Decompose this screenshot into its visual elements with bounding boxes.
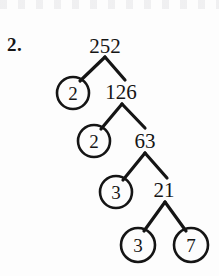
prime-node-7: 7 <box>186 236 196 255</box>
composite-node-21: 21 <box>154 180 175 201</box>
composite-node-63: 63 <box>135 131 156 152</box>
composite-node-252: 252 <box>89 36 121 57</box>
prime-node-2a: 2 <box>68 84 78 103</box>
prime-node-2b: 2 <box>89 132 99 151</box>
prime-node-3b: 3 <box>133 236 143 255</box>
factor-tree-page: 2. 252 126 63 21 2 2 3 3 7 <box>0 0 219 276</box>
branch-252-126 <box>105 57 125 80</box>
branch-126-63 <box>122 104 145 128</box>
branch-252-2 <box>80 57 105 81</box>
branch-63-3 <box>123 153 145 180</box>
composite-node-126: 126 <box>105 82 137 103</box>
branch-63-21 <box>145 153 167 178</box>
prime-node-3a: 3 <box>111 183 121 202</box>
branch-21-7 <box>165 202 186 231</box>
branch-21-3 <box>144 202 165 231</box>
branch-126-2 <box>101 104 122 129</box>
